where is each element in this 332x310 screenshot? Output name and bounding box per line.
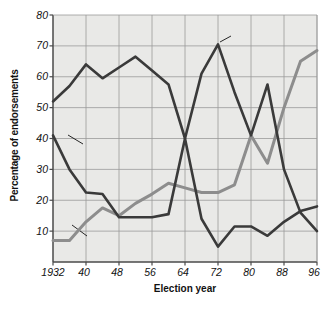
plot-area: [0, 0, 332, 310]
chart-container: Percentage of endorsements 80 70 60 50 4…: [0, 0, 332, 310]
